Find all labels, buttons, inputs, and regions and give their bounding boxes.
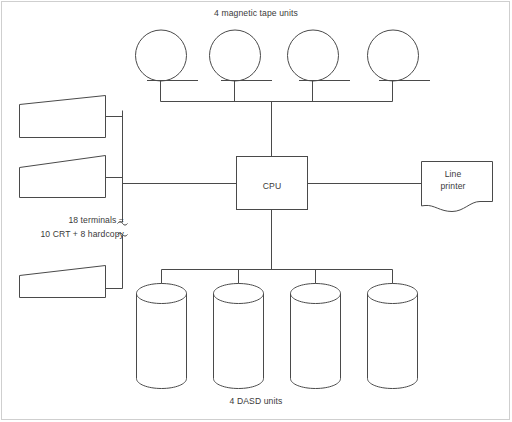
line-printer-label-line2: printer <box>424 180 482 192</box>
terminals-note: 18 terminals = 10 CRT + 8 hardcopy <box>6 214 124 241</box>
terminals-note-line2: 10 CRT + 8 hardcopy <box>6 228 124 242</box>
dasd-unit-4[interactable] <box>368 284 418 389</box>
tape-unit-1[interactable] <box>136 30 199 81</box>
dasd-unit-2[interactable] <box>214 284 264 389</box>
terminals-note-line1: 18 terminals = <box>6 214 124 228</box>
line-printer-label-line1: Line <box>424 168 482 180</box>
system-block-diagram <box>0 0 512 422</box>
tape-units-caption: 4 magnetic tape units <box>0 8 512 18</box>
dasd-units-caption: 4 DASD units <box>0 396 512 406</box>
tape-unit-4[interactable] <box>368 30 431 81</box>
dasd-bus <box>162 270 393 291</box>
diagram-canvas: 4 magnetic tape units 4 DASD units CPU L… <box>0 0 512 422</box>
tape-unit-2[interactable] <box>210 30 273 81</box>
terminal-unit-2[interactable] <box>20 156 106 198</box>
cpu-label: CPU <box>236 181 308 191</box>
tape-bus <box>161 81 393 157</box>
tape-unit-3[interactable] <box>288 30 351 81</box>
terminal-unit-3[interactable] <box>20 266 106 298</box>
terminal-unit-1[interactable] <box>20 96 106 138</box>
terminal-bus <box>106 111 128 289</box>
line-printer-label: Line printer <box>424 168 482 192</box>
dasd-unit-1[interactable] <box>137 284 187 389</box>
dasd-unit-3[interactable] <box>291 284 341 389</box>
